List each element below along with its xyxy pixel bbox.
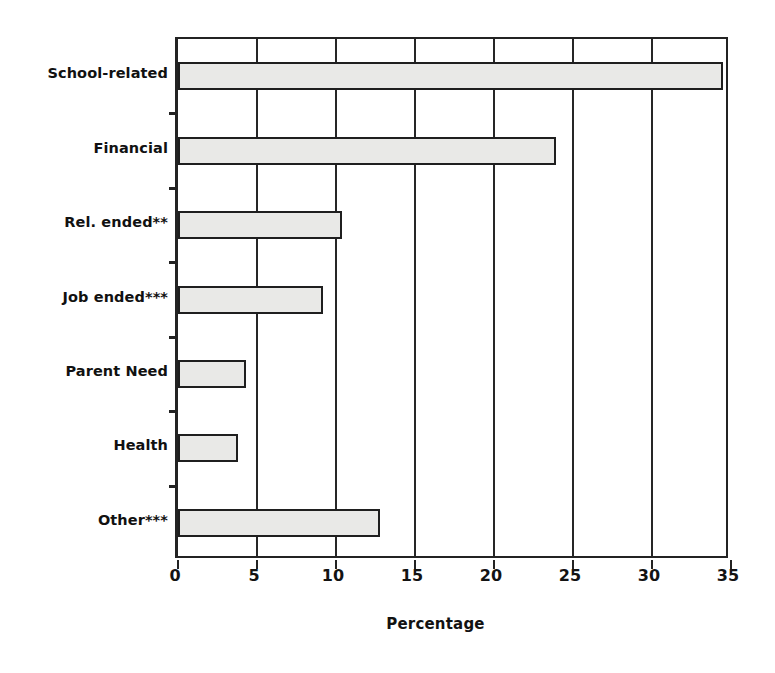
x-axis-tick-label: 15 <box>401 566 423 585</box>
y-axis-category-label: Financial <box>0 140 168 156</box>
x-axis-tick-label: 20 <box>480 566 502 585</box>
bar[interactable] <box>178 211 342 239</box>
y-axis-category-label: Rel. ended** <box>0 214 168 230</box>
bar[interactable] <box>178 360 246 388</box>
x-axis-title: Percentage <box>0 615 775 633</box>
bar[interactable] <box>178 62 723 90</box>
bar-group <box>178 211 731 239</box>
x-axis-tick-label: 25 <box>559 566 581 585</box>
bar-group <box>178 360 731 388</box>
chart-title <box>0 0 775 2</box>
y-axis-tick <box>169 187 178 190</box>
bar-group <box>178 137 731 165</box>
y-axis-tick <box>169 485 178 488</box>
y-axis-category-label: School-related <box>0 65 168 81</box>
x-axis-title-text: Percentage <box>386 615 485 633</box>
bar-group <box>178 286 731 314</box>
y-axis-category-label: Other*** <box>0 512 168 528</box>
y-axis-tick <box>169 336 178 339</box>
y-axis-tick <box>169 112 178 115</box>
bar-group <box>178 509 731 537</box>
x-axis-tick-label: 35 <box>717 566 739 585</box>
bar[interactable] <box>178 509 380 537</box>
plot-area <box>175 37 728 558</box>
x-axis-tick-label: 0 <box>169 566 180 585</box>
y-axis-category-label: Job ended*** <box>0 289 168 305</box>
bar[interactable] <box>178 434 238 462</box>
bar-group <box>178 62 731 90</box>
y-axis-tick <box>169 261 178 264</box>
bar-group <box>178 434 731 462</box>
y-axis-tick <box>169 410 178 413</box>
bar-chart-figure: School-relatedFinancialRel. ended**Job e… <box>0 0 775 673</box>
y-axis-category-label: Health <box>0 437 168 453</box>
y-axis-category-label: Parent Need <box>0 363 168 379</box>
bar[interactable] <box>178 137 556 165</box>
x-axis-tick-labels: 05101520253035 <box>0 566 775 592</box>
x-axis-tick-label: 5 <box>248 566 259 585</box>
y-axis-category-labels: School-relatedFinancialRel. ended**Job e… <box>0 37 168 558</box>
x-axis-tick-label: 10 <box>322 566 344 585</box>
bar[interactable] <box>178 286 323 314</box>
x-axis-tick-label: 30 <box>638 566 660 585</box>
